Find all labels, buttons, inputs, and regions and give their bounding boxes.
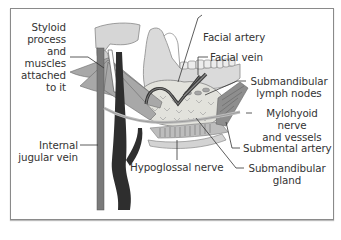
label-line: process <box>12 33 66 45</box>
label-line: attached <box>12 69 66 81</box>
label-line: jugular vein <box>14 151 78 163</box>
label-mylohyoid: Mylohyoid nerve and vessels <box>252 107 332 143</box>
label-submandibular-gland: Submandibular gland <box>248 162 326 186</box>
label-submandibular-lymph-nodes: Submandibular lymph nodes <box>248 75 330 99</box>
label-internal-jugular-vein: Internal jugular vein <box>14 139 78 163</box>
leader-submental <box>226 122 240 148</box>
label-line: Mylohyoid nerve <box>252 107 332 131</box>
label-facial-artery: Facial artery <box>203 31 265 43</box>
label-line: lymph nodes <box>248 87 330 99</box>
label-line: Styloid <box>12 21 66 33</box>
label-line: gland <box>248 174 326 186</box>
mylohyoid-muscle <box>216 82 248 126</box>
label-submental-artery: Submental artery <box>243 142 332 154</box>
label-line: to it <box>12 81 66 93</box>
label-hypoglossal-nerve: Hypoglossal nerve <box>130 161 223 173</box>
label-line: Submandibular <box>248 162 326 174</box>
label-styloid: Styloid process and muscles attached to … <box>12 21 66 93</box>
label-facial-vein: Facial vein <box>210 51 263 63</box>
label-line: and <box>12 45 66 57</box>
label-line: Submandibular <box>248 75 330 87</box>
internal-jugular-vein <box>97 48 104 210</box>
label-line: Internal <box>14 139 78 151</box>
skull-base-bone <box>95 23 140 52</box>
label-line: muscles <box>12 57 66 69</box>
